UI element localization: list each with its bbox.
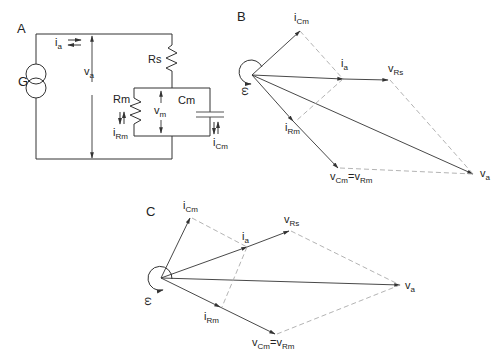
panel-c-phasor: C ω iCm ia vRs iRm vCm=vRm va <box>143 199 416 351</box>
current-source-icon <box>26 55 46 107</box>
vector-va <box>161 278 400 285</box>
label-vrs: vRs <box>388 62 403 77</box>
vector-irm <box>252 75 293 121</box>
icm-label: iCm <box>213 136 228 151</box>
dashed-icm-ia <box>192 218 247 247</box>
ia-label: ia <box>55 36 62 51</box>
vector-vcm <box>220 307 275 334</box>
panel-c-label: C <box>146 204 155 219</box>
source-label: G <box>18 74 28 89</box>
omega-label: ω <box>240 87 252 96</box>
label-va: va <box>405 279 416 294</box>
va-label: va <box>84 65 95 80</box>
label-vrs: vRs <box>284 213 299 228</box>
ia-arrows-icon <box>68 40 81 45</box>
vm-label: vm <box>154 104 167 119</box>
rs-label: Rs <box>148 53 162 65</box>
omega-label: ω <box>143 297 155 306</box>
vector-vrs <box>343 79 388 80</box>
dashed-icm-ia <box>300 31 343 79</box>
membrane-top-wire <box>134 88 210 112</box>
dashed-ia-irm <box>222 247 247 307</box>
cm-label: Cm <box>178 94 195 106</box>
label-irm: iRm <box>204 310 219 325</box>
panel-b-label: B <box>237 9 246 24</box>
dashed-vrs-va <box>390 80 473 174</box>
membrane-capacitor-icon <box>196 112 224 117</box>
icm-arrows-icon <box>214 122 218 134</box>
panel-a-label: A <box>17 21 26 36</box>
panel-b-phasor: B ω iCm ia vRs iRm vCm=vRm va <box>237 9 491 185</box>
irm-arrows-icon <box>120 112 124 124</box>
series-resistor-icon <box>166 45 177 88</box>
vector-icm <box>252 31 300 75</box>
bottom-wire <box>36 107 172 159</box>
label-icm: iCm <box>183 199 198 214</box>
label-vcm-vrm: vCm=vRm <box>330 170 373 185</box>
label-vcm-vrm: vCm=vRm <box>252 336 295 351</box>
panel-a-circuit: A G ia va Rs Rm <box>17 21 228 159</box>
label-ia: ia <box>242 230 249 245</box>
label-ia: ia <box>341 57 348 72</box>
dashed-vrs-va <box>291 231 400 285</box>
irm-label: iRm <box>113 126 128 141</box>
label-icm: iCm <box>294 11 309 26</box>
vector-ia <box>252 75 343 79</box>
figure-canvas: A G ia va Rs Rm <box>0 0 500 360</box>
vector-irm <box>161 278 220 307</box>
omega-rotation-icon <box>239 60 262 84</box>
label-va: va <box>480 167 491 182</box>
label-irm: iRm <box>285 121 300 136</box>
vector-vrs <box>247 231 289 247</box>
rm-label: Rm <box>113 93 130 105</box>
dashed-vcm-va <box>277 285 400 334</box>
dashed-vcm-va <box>340 168 473 174</box>
dashed-ia-irm <box>296 79 343 121</box>
